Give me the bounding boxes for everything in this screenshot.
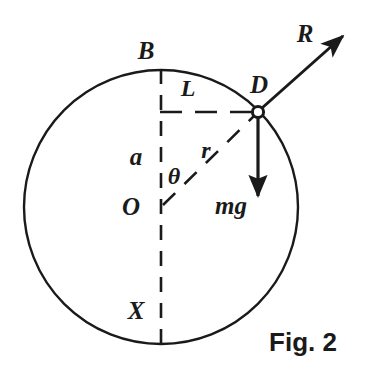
point-marker-d [252, 106, 263, 117]
figure-caption: Fig. 2 [269, 329, 337, 355]
label-weight-mg: mg [215, 193, 247, 218]
figure-canvas: B L D R a r θ O mg X Fig. 2 [0, 0, 368, 366]
label-radius-a: a [130, 144, 143, 169]
label-center-o: O [122, 194, 140, 219]
label-reaction-force-r: R [297, 21, 314, 46]
label-chord-l: L [181, 76, 196, 100]
label-angle-theta: θ [168, 164, 180, 188]
label-point-b: B [138, 38, 155, 63]
diagram-svg [0, 0, 368, 366]
label-radius-r: r [201, 138, 210, 162]
label-point-d: D [250, 72, 268, 97]
label-point-x: X [128, 298, 145, 323]
reaction-force-arrow [262, 36, 343, 108]
